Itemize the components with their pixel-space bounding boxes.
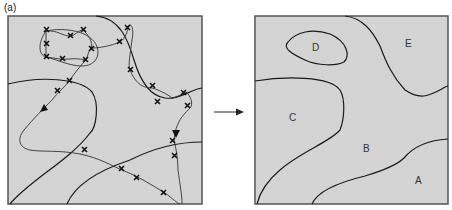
region-label-b: B bbox=[363, 143, 370, 154]
right-panel: D E C B A bbox=[255, 16, 448, 204]
diagram-canvas: D E C B A bbox=[0, 0, 452, 210]
region-label-c: C bbox=[289, 112, 296, 123]
region-label-d: D bbox=[312, 42, 319, 53]
left-panel-frame bbox=[8, 16, 202, 204]
transform-arrow-icon bbox=[214, 109, 244, 116]
left-panel bbox=[8, 16, 202, 204]
region-label-e: E bbox=[405, 38, 412, 49]
region-label-a: A bbox=[415, 175, 422, 186]
